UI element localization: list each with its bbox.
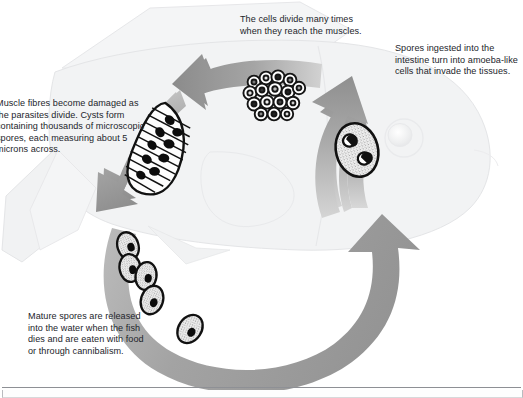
caption-spores-ingested: Spores ingested into the intestine turn …	[395, 43, 520, 78]
diagram-canvas: Muscle fibres become damaged as the para…	[0, 0, 523, 398]
spore-icon	[172, 310, 208, 348]
caption-cells-divide: The cells divide many times when they re…	[240, 14, 375, 37]
footer-divider	[2, 387, 521, 388]
caption-muscle-fibres: Muscle fibres become damaged as the para…	[0, 98, 146, 156]
caption-mature-spores: Mature spores are released into the wate…	[28, 311, 150, 357]
footer-panel-edge	[2, 390, 523, 398]
fish-eye	[388, 124, 412, 147]
